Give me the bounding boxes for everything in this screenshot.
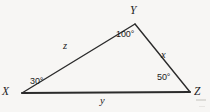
vertex-label-z: Z (194, 86, 200, 98)
side-label-z: z (63, 41, 67, 52)
scan-artifact (196, 99, 206, 101)
side-label-y: y (100, 96, 105, 107)
triangle-side-y (22, 92, 190, 93)
vertex-label-x: X (2, 86, 9, 98)
side-label-x: x (161, 50, 166, 61)
triangle-figure-svg (0, 0, 210, 112)
angle-label-x: 30° (30, 77, 43, 86)
angle-label-z: 50° (157, 73, 170, 82)
scan-artifact (199, 106, 205, 107)
vertex-label-y: Y (130, 5, 136, 17)
angle-label-y: 100° (116, 30, 134, 39)
triangle-diagram: X Y Z z x y 30° 100° 50° (0, 0, 210, 112)
